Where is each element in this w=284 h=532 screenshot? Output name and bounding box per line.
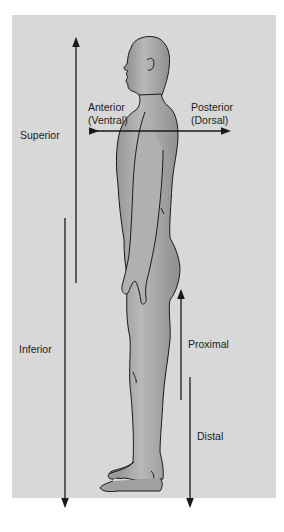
label-posterior: Posterior	[191, 101, 233, 113]
label-distal: Distal	[197, 430, 223, 442]
label-inferior: Inferior	[19, 343, 52, 355]
label-dorsal: (Dorsal)	[191, 114, 228, 126]
anatomical-position-figure	[0, 0, 284, 532]
label-ventral: (Ventral)	[88, 114, 128, 126]
label-anterior: Anterior	[88, 101, 125, 113]
label-superior: Superior	[20, 129, 60, 141]
label-proximal: Proximal	[188, 338, 229, 350]
